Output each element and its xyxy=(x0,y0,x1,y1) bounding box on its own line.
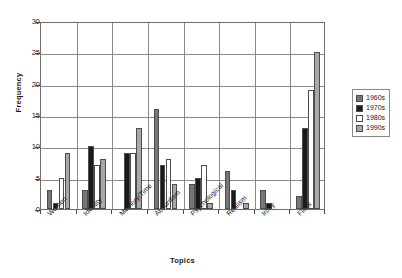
legend-swatch-icon xyxy=(356,105,363,112)
plot-area xyxy=(40,22,325,210)
y-axis-ticks: 051015202530 xyxy=(0,22,40,210)
x-axis-title: Topics xyxy=(40,256,325,265)
bar-group xyxy=(260,23,284,209)
legend-swatch-icon xyxy=(356,115,363,122)
legend-item-1980s: 1980s xyxy=(356,113,385,123)
legend-swatch-icon xyxy=(356,125,363,132)
bar-1990s-Films xyxy=(314,52,320,209)
legend-swatch-icon xyxy=(356,95,363,102)
bar-1960s-Absurdism xyxy=(154,109,160,209)
bar-group xyxy=(189,23,213,209)
bar-1970s-Films xyxy=(302,128,308,209)
bar-group xyxy=(296,23,320,209)
legend-item-1990s: 1990s xyxy=(356,123,385,133)
legend-label: 1980s xyxy=(366,114,385,122)
bar-1980s-Films xyxy=(308,90,314,209)
bars-layer xyxy=(41,23,324,209)
legend-label: 1970s xyxy=(366,104,385,112)
bar-group xyxy=(225,23,249,209)
x-axis-tick-labels: WomenIdentityMemory/TimeAbsurdismPsychol… xyxy=(40,212,340,258)
bar-group xyxy=(82,23,106,209)
legend-label: 1990s xyxy=(366,124,385,132)
legend-label: 1960s xyxy=(366,94,385,102)
bar-group xyxy=(118,23,142,209)
legend-item-1960s: 1960s xyxy=(356,93,385,103)
bar-group xyxy=(154,23,178,209)
chart-legend: 1960s1970s1980s1990s xyxy=(352,89,390,137)
bar-1960s-Realism xyxy=(225,171,231,209)
bar-chart-figure: Frequency 051015202530 WomenIdentityMemo… xyxy=(0,0,402,278)
bar-group xyxy=(47,23,71,209)
legend-item-1970s: 1970s xyxy=(356,103,385,113)
